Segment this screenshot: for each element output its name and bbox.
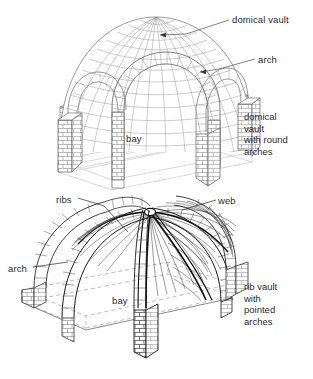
label-bay-top: bay [126, 134, 142, 145]
label-arch-bottom: arch [8, 264, 27, 275]
caption-line: rib vault [244, 281, 277, 293]
caption-line: vault [244, 123, 288, 135]
caption-line: domical [244, 111, 288, 123]
bottom-pier-front-right [221, 298, 232, 318]
top-pier-front-left [112, 112, 124, 188]
top-base-block-left [58, 113, 82, 172]
label-domical-vault: domical vault [232, 15, 289, 26]
label-web: web [218, 196, 236, 207]
caption-rib-vault: rib vault with pointed arches [244, 281, 277, 327]
bottom-rib-vault-drawing [22, 195, 248, 358]
label-ribs: ribs [56, 195, 72, 206]
caption-line: arches [244, 146, 288, 158]
bottom-pier-front-center [134, 310, 146, 358]
bottom-pier-front-left [62, 318, 74, 342]
top-vault-shell [59, 17, 253, 158]
caption-line: pointed [244, 304, 277, 316]
caption-line: with round [244, 134, 288, 146]
leader-ribs [78, 198, 104, 206]
caption-line: arches [244, 316, 277, 328]
top-domical-vault-drawing [58, 17, 260, 190]
caption-domical-vault: domical vault with round arches [244, 111, 288, 157]
label-bay-bottom: bay [112, 296, 128, 307]
caption-line: with [244, 293, 277, 305]
label-arch-top: arch [258, 55, 277, 66]
bottom-piers [22, 262, 248, 358]
vault-diagram-figure: domical vault arch bay domical vault wit… [0, 0, 313, 379]
